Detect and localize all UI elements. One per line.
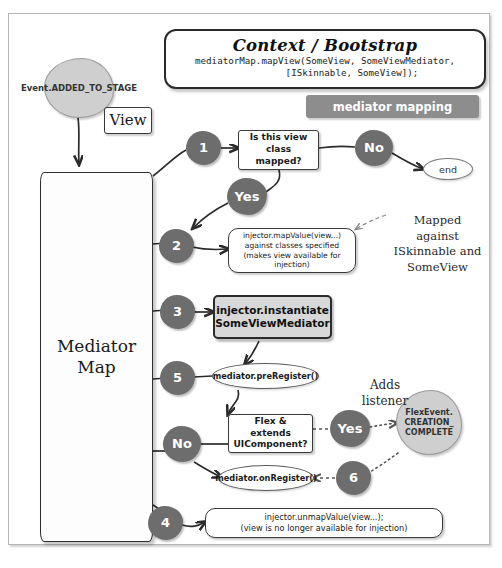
annotation-adds-listener: Addslistener xyxy=(352,377,418,409)
mediator-map-label: MediatorMap xyxy=(57,336,136,379)
step-node-5-label: 5 xyxy=(173,371,182,385)
decision-no-flex[interactable]: No xyxy=(163,426,201,462)
flex-extends-uicomponent-box: Flex & extendsUIComponent? xyxy=(228,414,313,453)
injector-instantiate-box: injector.instantiateSomeViewMediator xyxy=(213,295,332,339)
injector-mapvalue-box: injector.mapValue(view...)against classe… xyxy=(228,228,356,273)
step-node-1[interactable]: 1 xyxy=(186,131,221,165)
step-node-1-label: 1 xyxy=(199,141,208,155)
decision-no-mapped[interactable]: No xyxy=(355,130,393,166)
step-node-2[interactable]: 2 xyxy=(159,229,194,263)
decision-no-flex-label: No xyxy=(172,437,192,451)
end-node: end xyxy=(423,158,473,180)
step-node-3[interactable]: 3 xyxy=(160,295,195,329)
context-bootstrap-box: Context / Bootstrap mediatorMap.mapView(… xyxy=(164,29,486,89)
decision-no-mapped-label: No xyxy=(364,141,384,155)
injector-unmapvalue-label: injector.unmapValue(view...);(view is no… xyxy=(241,512,408,533)
step-node-4-label: 4 xyxy=(161,516,170,530)
step-node-3-label: 3 xyxy=(173,305,182,319)
decision-yes-mapped-label: Yes xyxy=(235,190,260,204)
step-node-6-label: 6 xyxy=(349,471,358,485)
flex-extends-uicomponent-label: Flex & extendsUIComponent? xyxy=(233,416,308,451)
injector-instantiate-label: injector.instantiateSomeViewMediator xyxy=(215,304,329,330)
view-box: View xyxy=(104,107,152,134)
mediator-preregister-pill: mediator.preRegister() xyxy=(212,363,319,389)
view-box-label: View xyxy=(109,111,146,131)
context-code-line-1: mediatorMap.mapView(SomeView, SomeViewMe… xyxy=(166,55,484,67)
injector-mapvalue-label: injector.mapValue(view...)against classe… xyxy=(243,231,341,270)
decision-yes-mapped[interactable]: Yes xyxy=(227,178,267,215)
mediator-preregister-label: mediator.preRegister() xyxy=(213,371,319,381)
decision-yes-flex-label: Yes xyxy=(338,422,363,436)
step-node-5[interactable]: 5 xyxy=(160,361,195,395)
step-node-2-label: 2 xyxy=(172,239,181,253)
injector-unmapvalue-box: injector.unmapValue(view...);(view is no… xyxy=(205,508,443,538)
event-added-to-stage-label: Event.ADDED_TO_STAGE xyxy=(21,83,137,94)
diagram-canvas: Context / Bootstrap mediatorMap.mapView(… xyxy=(0,0,502,568)
mediator-onregister-label: mediator.onRegister() xyxy=(215,473,317,483)
context-code-line-2: [ISkinnable, SomeView]); xyxy=(166,67,484,79)
mediator-map-container: MediatorMap xyxy=(40,172,153,542)
step-node-6[interactable]: 6 xyxy=(336,461,371,495)
annotation-mapped-against: MappedagainstISkinnable andSomeView xyxy=(380,213,495,275)
step-node-4[interactable]: 4 xyxy=(148,506,183,540)
mediator-onregister-pill: mediator.onRegister() xyxy=(218,465,314,491)
context-title: Context / Bootstrap xyxy=(166,36,484,55)
is-view-class-mapped-label: Is this view classmapped? xyxy=(243,132,314,167)
is-view-class-mapped-box: Is this view classmapped? xyxy=(238,130,319,170)
decision-yes-flex[interactable]: Yes xyxy=(330,410,370,447)
flexevent-creation-complete-label: FlexEvent.CREATION_COMPLETE xyxy=(405,408,454,438)
mediator-mapping-banner: mediator mapping xyxy=(306,95,479,118)
end-node-label: end xyxy=(439,164,457,175)
